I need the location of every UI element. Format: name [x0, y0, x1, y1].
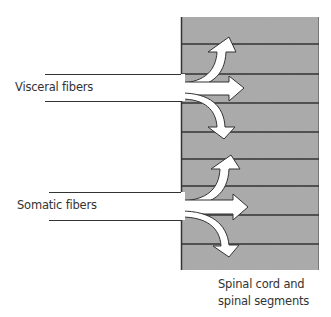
spinal-innervation-diagram [0, 0, 331, 317]
spinal-cord-caption: Spinal cord and spinal segments [218, 276, 309, 310]
visceral-junction-fill [179, 76, 185, 100]
visceral-fibers-label: Visceral fibers [15, 80, 93, 94]
spinal-cord-block [181, 17, 319, 270]
caption-line-1: Spinal cord and [218, 276, 309, 293]
somatic-fibers-label: Somatic fibers [17, 198, 97, 212]
somatic-junction-fill [179, 194, 185, 219]
spinal-cord-fill [181, 17, 319, 270]
caption-line-2: spinal segments [218, 293, 309, 310]
